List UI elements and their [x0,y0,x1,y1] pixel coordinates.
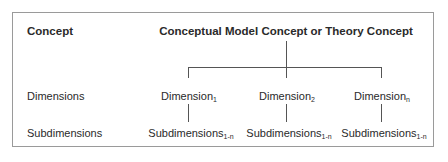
subdimension-node-2: Subdimensions1-n [246,127,331,140]
sub-connector-1 [188,104,189,122]
root-concept-node: Conceptual Model Concept or Theory Conce… [159,25,413,37]
subdimension-node-n: Subdimensions1-n [341,127,426,140]
dimension-node-2: Dimension2 [259,90,315,103]
dimension-node-n: Dimensionn [354,90,410,103]
branch-line [188,67,382,68]
sub-connector-n [381,104,382,122]
drop-line-2 [286,67,287,78]
subdimension-node-1: Subdimensions1-n [148,127,233,140]
drop-line-n [381,67,382,78]
dimensions-row-label: Dimensions [27,90,84,102]
root-connector-line [286,41,287,67]
concept-column-header: Concept [27,25,73,37]
dimension-node-1: Dimension1 [161,90,217,103]
sub-connector-2 [286,104,287,122]
drop-line-1 [188,67,189,78]
subdimensions-row-label: Subdimensions [27,127,102,139]
